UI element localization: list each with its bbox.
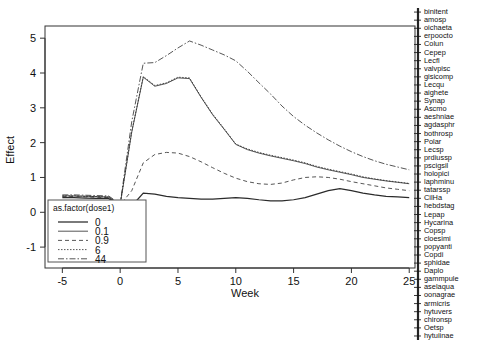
x-tick-label: -5 — [57, 275, 67, 287]
x-tick-label: 5 — [175, 275, 181, 287]
y-tick-label: 3 — [30, 102, 36, 114]
y-tick-label: -1 — [26, 241, 36, 253]
species-label: hytuiinae — [424, 331, 454, 340]
effects-plot-figure: -1012345 -50510152025 as.factor(dose1)00… — [0, 0, 482, 347]
legend-entry-label: 44 — [95, 254, 107, 265]
y-tick-label: 0 — [30, 206, 36, 218]
x-tick-label: 0 — [117, 275, 123, 287]
y-tick-label: 2 — [30, 137, 36, 149]
x-tick-label: 10 — [230, 275, 242, 287]
y-tick-label: 1 — [30, 171, 36, 183]
x-tick-label: 20 — [345, 275, 357, 287]
x-tick-label: 25 — [403, 275, 415, 287]
legend-title: as.factor(dose1) — [53, 203, 115, 213]
y-tick-label: 5 — [30, 32, 36, 44]
y-tick-label: 4 — [30, 67, 36, 79]
x-tick-label: 15 — [287, 275, 299, 287]
y-axis-title: Effect — [4, 136, 16, 164]
chart-canvas: -1012345 -50510152025 as.factor(dose1)00… — [0, 0, 482, 347]
chart-legend: as.factor(dose1)00.10.9644 — [48, 200, 146, 265]
x-axis-title: Week — [231, 287, 259, 299]
